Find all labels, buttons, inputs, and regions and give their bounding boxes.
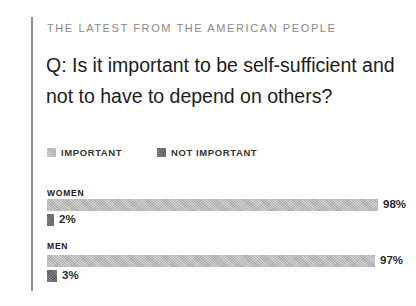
legend-swatch-important — [47, 148, 56, 157]
legend-label-not-important: NOT IMPORTANT — [171, 147, 257, 158]
bar-women-not-important — [47, 214, 54, 226]
legend-swatch-not-important — [157, 148, 166, 157]
legend-item-not-important: NOT IMPORTANT — [157, 147, 257, 158]
question-title: Q: Is it important to be self-sufficient… — [46, 50, 411, 112]
value-men-not-important: 3% — [62, 269, 79, 281]
group-label-women: WOMEN — [47, 188, 85, 198]
bar-women-important — [47, 199, 378, 211]
group-label-men: MEN — [47, 241, 68, 251]
bar-men-not-important — [47, 270, 57, 282]
value-men-important: 97% — [380, 254, 403, 266]
bar-men-important — [47, 255, 375, 267]
value-women-not-important: 2% — [59, 213, 76, 225]
legend-label-important: IMPORTANT — [61, 147, 122, 158]
value-women-important: 98% — [383, 198, 406, 210]
vertical-rule — [31, 17, 33, 291]
kicker-header: THE LATEST FROM THE AMERICAN PEOPLE — [47, 22, 337, 34]
legend-item-important: IMPORTANT — [47, 147, 122, 158]
